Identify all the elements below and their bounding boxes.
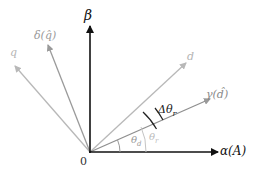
d-vector-label: d	[187, 50, 194, 63]
theta-d-arc	[118, 140, 121, 152]
gamma-d-hat-label: γ(d̂)	[206, 88, 228, 101]
theta-r-sub: r	[155, 137, 158, 145]
delta-theta-r-base: Δθ	[158, 103, 173, 116]
delta-theta-r-arc-ext	[143, 112, 157, 129]
origin-label: 0	[80, 155, 87, 168]
alpha-axis-label: α(A)	[220, 144, 246, 158]
delta-q-hat-label: δ(q̂)	[34, 29, 56, 42]
delta-theta-r-sub: r	[173, 109, 177, 118]
theta-d-label: θd	[131, 134, 142, 148]
theta-d-sub: d	[137, 140, 141, 148]
q-vector-label: q	[10, 46, 17, 59]
q-vector	[15, 66, 90, 152]
delta-theta-r-label: Δθr	[158, 103, 176, 118]
delta-q-hat-vector	[48, 45, 90, 152]
theta-r-label: θr	[149, 131, 158, 145]
vector-diagram	[0, 0, 257, 171]
beta-axis-label: β	[84, 7, 92, 23]
